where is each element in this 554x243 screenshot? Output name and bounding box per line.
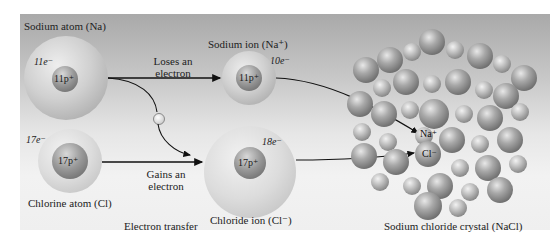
- electron-path-lower: [158, 124, 190, 155]
- nacl-crystal-image: [340, 22, 550, 222]
- crystal-label: Sodium chloride crystal (NaCl): [384, 220, 522, 232]
- crystal-na-label: Na⁺: [420, 128, 437, 140]
- crystal-cl-label: Cl⁻: [422, 148, 437, 160]
- electron-path-upper: [108, 78, 157, 112]
